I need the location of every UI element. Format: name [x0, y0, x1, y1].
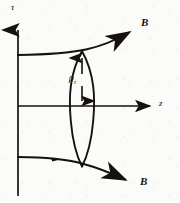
- upper-field-line-path: [18, 33, 129, 56]
- diagram-svg: [0, 0, 180, 203]
- lower-field-line: [18, 157, 125, 180]
- rho-subscript: τ: [74, 78, 76, 85]
- lower-field-line-path: [18, 157, 125, 180]
- upper-field-line: [18, 33, 129, 56]
- rho-tau-label: ρτ: [69, 73, 76, 86]
- horizontal-axis-label: z: [159, 99, 163, 108]
- figure-canvas: τ z B B ρτ: [0, 0, 180, 203]
- vertical-axis-label: τ: [11, 3, 14, 12]
- lower-field-line-label: B: [140, 176, 147, 187]
- upper-field-line-label: B: [141, 17, 148, 28]
- flux-tube-right-edge: [82, 51, 94, 167]
- flux-tube-left-edge: [70, 51, 82, 167]
